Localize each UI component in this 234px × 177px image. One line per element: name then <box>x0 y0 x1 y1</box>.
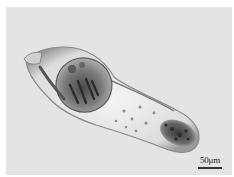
scale-bar-line <box>198 167 222 169</box>
scale-bar-label: 50μm <box>196 155 224 165</box>
scale-bar: 50μm <box>196 155 224 169</box>
organism-specimen <box>6 7 232 175</box>
micrograph-frame: 50μm <box>6 7 232 175</box>
